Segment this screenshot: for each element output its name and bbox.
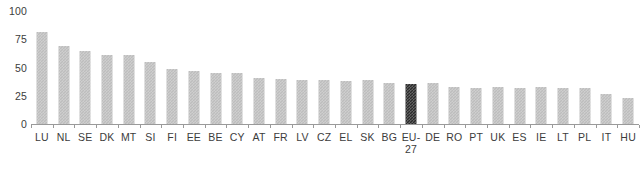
x-tick-mark [53,125,54,128]
x-axis-label: DE [422,131,444,143]
bar-slot [574,6,596,124]
x-tick-mark [617,125,618,128]
bar[interactable] [36,32,47,124]
bar-slot [270,6,292,124]
x-axis-label: FI [161,131,183,143]
bar[interactable] [623,98,634,124]
bar[interactable] [275,79,286,124]
x-tick-mark [378,125,379,128]
bar-slot [226,6,248,124]
x-axis-label: LV [292,131,314,143]
x-tick-mark [444,125,445,128]
x-axis-label: BG [378,131,400,143]
x-tick-mark [205,125,206,128]
x-axis-label: CZ [313,131,335,143]
bar-slot [161,6,183,124]
x-axis-label: SI [140,131,162,143]
x-axis-label: IE [530,131,552,143]
x-axis-ticks [31,125,639,129]
bar[interactable] [579,88,590,124]
bar[interactable] [536,87,547,124]
x-axis-label: PL [574,131,596,143]
bar[interactable] [514,88,525,124]
x-tick-mark [400,125,401,128]
bar[interactable] [297,80,308,124]
bar-slot [357,6,379,124]
bar-slot [313,6,335,124]
y-tick-label: 75 [15,34,27,44]
bar-slot [617,6,639,124]
bar-slot [444,6,466,124]
x-tick-mark [335,125,336,128]
bar-slot [96,6,118,124]
x-axis-label: DK [96,131,118,143]
bar-slot [378,6,400,124]
bar-slot [509,6,531,124]
bar[interactable] [492,87,503,124]
y-tick-label: 0 [21,119,27,129]
x-axis-label: NL [53,131,75,143]
x-axis-label: IT [596,131,618,143]
bar[interactable] [58,46,69,124]
x-axis-label: SK [357,131,379,143]
bar[interactable] [405,84,416,124]
bar-chart: 0255075100 LUNLSEDKMTSIFIEEBECYATFRLVCZE… [0,0,643,171]
bar-slot [31,6,53,124]
bar-slot [596,6,618,124]
bar[interactable] [80,51,91,124]
bar-slot [292,6,314,124]
bars-layer [31,6,639,125]
x-tick-mark [313,125,314,128]
x-axis-labels: LUNLSEDKMTSIFIEEBECYATFRLVCZELSKBGEU- 27… [31,131,639,167]
x-axis-label: CY [226,131,248,143]
bar[interactable] [145,62,156,124]
y-tick-label: 25 [15,91,27,101]
bar[interactable] [427,83,438,124]
bar-slot [552,6,574,124]
x-tick-mark [183,125,184,128]
x-axis-label: AT [248,131,270,143]
x-axis-label: MT [118,131,140,143]
bar[interactable] [340,81,351,124]
bar[interactable] [253,78,264,124]
x-tick-mark [118,125,119,128]
bar[interactable] [449,87,460,124]
x-axis-label: HU [617,131,639,143]
bar[interactable] [601,94,612,125]
bar-slot [140,6,162,124]
x-tick-mark [574,125,575,128]
x-tick-mark [161,125,162,128]
bar-slot [487,6,509,124]
bar-slot [118,6,140,124]
x-tick-mark [292,125,293,128]
x-tick-mark [226,125,227,128]
bar-slot [400,6,422,124]
bar-slot [183,6,205,124]
x-tick-mark [140,125,141,128]
bar[interactable] [362,80,373,124]
bar[interactable] [319,80,330,124]
y-tick-label: 100 [9,6,27,16]
bar[interactable] [101,55,112,124]
x-tick-mark [96,125,97,128]
x-axis-label: LT [552,131,574,143]
bar-slot [465,6,487,124]
bar[interactable] [210,73,221,124]
bar[interactable] [188,71,199,124]
bar[interactable] [232,73,243,124]
x-tick-mark [357,125,358,128]
bar[interactable] [557,88,568,124]
x-tick-mark [530,125,531,128]
bar-slot [335,6,357,124]
x-tick-mark [509,125,510,128]
bar-slot [530,6,552,124]
x-tick-mark [270,125,271,128]
bar[interactable] [167,69,178,124]
bar[interactable] [384,83,395,124]
x-axis-label: RO [444,131,466,143]
bar[interactable] [123,55,134,124]
bar-slot [248,6,270,124]
bar-slot [74,6,96,124]
bar[interactable] [471,88,482,124]
x-tick-mark [465,125,466,128]
